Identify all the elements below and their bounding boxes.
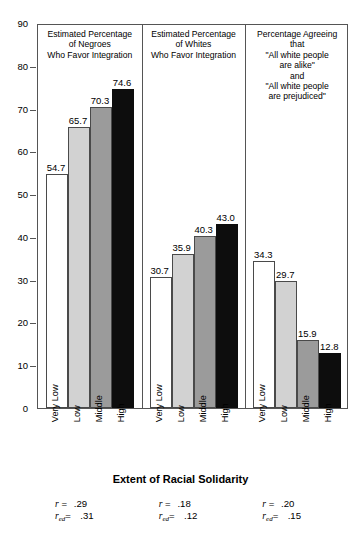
panel-stats: r =.29red=.31 <box>55 498 94 525</box>
panel-header-line: are prejudiced" <box>247 91 347 101</box>
bar-middle <box>194 236 216 408</box>
stat-subscript-ed: ed <box>162 515 169 523</box>
y-axis-tick-mark <box>30 67 36 68</box>
y-axis-tick-label: 0 <box>2 404 28 414</box>
y-axis-tick-mark <box>30 195 36 196</box>
category-label: Very Low <box>258 384 267 422</box>
y-axis-tick-label: 90 <box>2 19 28 29</box>
category-label: High <box>220 403 229 422</box>
y-axis-tick-label: 50 <box>2 190 28 200</box>
stat-equals: = <box>169 510 184 522</box>
panel-header-line: and <box>247 71 347 81</box>
y-axis-tick-mark <box>30 323 36 324</box>
bar-high <box>319 353 341 408</box>
panel-header-line: that <box>247 39 347 49</box>
bar-low <box>275 281 297 408</box>
stat-subscript-ed: ed <box>266 515 273 523</box>
stat-r-ed: red=.15 <box>262 510 301 526</box>
category-label: Low <box>73 405 82 422</box>
panel-header-line: are alike" <box>247 60 347 70</box>
bar-value-label: 34.3 <box>248 250 278 260</box>
stat-equals: = <box>162 498 177 510</box>
stat-subscript-ed: ed <box>59 515 66 523</box>
y-axis-tick-mark <box>30 238 36 239</box>
bar-value-label: 54.7 <box>41 163 71 173</box>
bar-value-label: 15.9 <box>292 329 322 339</box>
category-label: Very Low <box>154 384 163 422</box>
y-axis-tick-label: 20 <box>2 318 28 328</box>
panel-header-line: "All white people <box>247 81 347 91</box>
y-axis-tick-label: 30 <box>2 276 28 286</box>
x-axis-title: Extent of Racial Solidarity <box>0 473 361 485</box>
stat-r: r =.20 <box>262 498 301 510</box>
category-label: High <box>324 403 333 422</box>
y-axis-tick-label: 70 <box>2 105 28 115</box>
panel-stats: r =.20red=.15 <box>262 498 301 525</box>
stat-value-r-ed: .31 <box>80 510 93 522</box>
panel-stats: r =.18red=.12 <box>159 498 198 525</box>
bar-low <box>68 127 90 408</box>
panel-header-line: Who Favor Integration <box>144 50 244 60</box>
category-label: Middle <box>95 395 104 422</box>
category-label: Middle <box>198 395 207 422</box>
bar-value-label: 40.3 <box>189 225 219 235</box>
bar-value-label: 35.9 <box>167 243 197 253</box>
stat-value-r: .20 <box>281 498 294 510</box>
bar-value-label: 12.8 <box>314 342 344 352</box>
panel-header-line: Estimated Percentage <box>144 29 244 39</box>
plot-area: Estimated Percentageof NegroesWho Favor … <box>37 24 348 409</box>
stat-r: r =.29 <box>55 498 94 510</box>
category-label: High <box>117 403 126 422</box>
bar-value-label: 70.3 <box>85 96 115 106</box>
stat-value-r: .29 <box>74 498 87 510</box>
panel-header-line: Percentage Agreeing <box>247 29 347 39</box>
y-axis-tick-mark <box>30 366 36 367</box>
stat-equals: = <box>59 498 74 510</box>
group-separator <box>245 25 246 408</box>
panel-header-line: Estimated Percentage <box>40 29 140 39</box>
bar-value-label: 30.7 <box>145 266 175 276</box>
category-label: Low <box>176 405 185 422</box>
category-label: Very Low <box>51 384 60 422</box>
category-label: Middle <box>302 395 311 422</box>
panel-header: Estimated Percentageof WhitesWho Favor I… <box>144 29 244 60</box>
panel-header: Estimated Percentageof NegroesWho Favor … <box>40 29 140 60</box>
stat-equals: = <box>65 510 80 522</box>
y-axis-tick-label: 10 <box>2 361 28 371</box>
figure: 9080706050403020100 Estimated Percentage… <box>0 0 361 539</box>
bar-high <box>112 89 134 408</box>
y-axis-tick-mark <box>30 152 36 153</box>
y-axis-tick-label: 40 <box>2 233 28 243</box>
bar-value-label: 29.7 <box>270 270 300 280</box>
category-label: Low <box>280 405 289 422</box>
stat-equals: = <box>266 498 281 510</box>
panel-header-line: of Negroes <box>40 39 140 49</box>
bar-high <box>216 224 238 408</box>
bar-very_low <box>46 174 68 408</box>
stat-value-r-ed: .15 <box>288 510 301 522</box>
stat-value-r: .18 <box>177 498 190 510</box>
y-axis-tick-label: 60 <box>2 147 28 157</box>
bar-value-label: 43.0 <box>211 213 241 223</box>
panel-header-line: of Whites <box>144 39 244 49</box>
stat-equals: = <box>273 510 288 522</box>
stat-r-ed: red=.31 <box>55 510 94 526</box>
stat-value-r-ed: .12 <box>184 510 197 522</box>
bar-middle <box>90 107 112 408</box>
y-axis-tick-mark <box>30 281 36 282</box>
y-axis-tick-mark <box>30 110 36 111</box>
panel-header-line: "All white people <box>247 50 347 60</box>
stat-r: r =.18 <box>159 498 198 510</box>
bar-value-label: 65.7 <box>63 116 93 126</box>
bar-value-label: 74.6 <box>107 78 137 88</box>
stat-r-ed: red=.12 <box>159 510 198 526</box>
group-separator <box>142 25 143 408</box>
y-axis-tick-label: 80 <box>2 62 28 72</box>
panel-header-line: Who Favor Integration <box>40 50 140 60</box>
bar-low <box>172 254 194 408</box>
panel-header: Percentage Agreeingthat"All white people… <box>247 29 347 102</box>
